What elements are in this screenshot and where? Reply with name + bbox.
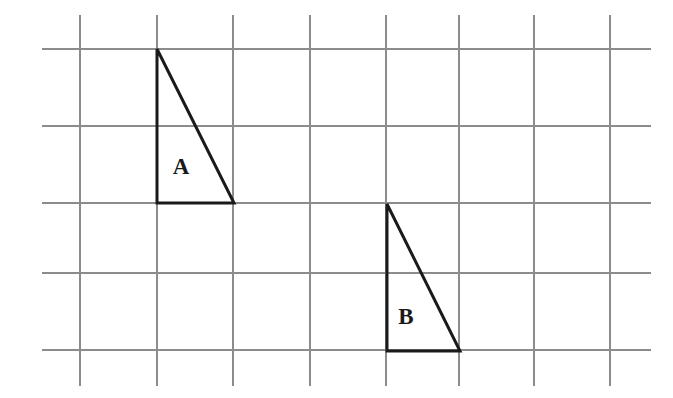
figure-background <box>0 0 673 398</box>
triangle-a-label: A <box>173 154 190 179</box>
figure-canvas: AB <box>0 0 673 398</box>
triangle-b-label: B <box>398 304 413 329</box>
geometry-figure: AB <box>0 0 673 398</box>
